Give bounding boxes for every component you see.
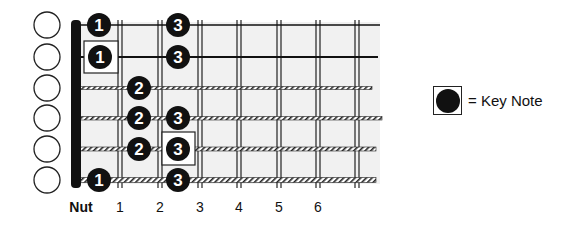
note-s1-f3: 3 bbox=[166, 13, 190, 37]
fretboard-diagram: 1 3 1 3 2 2 3 2 3 1 3 Nut 1 2 3 4 5 6 bbox=[0, 0, 588, 230]
fret-label-3: 3 bbox=[196, 199, 204, 215]
key-note-legend-icon bbox=[433, 86, 462, 115]
note-s2-f1-key: 1 bbox=[88, 45, 112, 69]
note-s6-f3: 3 bbox=[166, 168, 190, 192]
svg-text:3: 3 bbox=[173, 140, 182, 159]
fret-label-5: 5 bbox=[275, 199, 283, 215]
svg-text:2: 2 bbox=[134, 79, 143, 98]
svg-text:3: 3 bbox=[173, 48, 182, 67]
legend-label: = Key Note bbox=[468, 92, 543, 109]
svg-text:1: 1 bbox=[94, 16, 103, 35]
svg-text:1: 1 bbox=[94, 171, 103, 190]
svg-text:3: 3 bbox=[173, 16, 182, 35]
svg-text:1: 1 bbox=[95, 48, 104, 67]
key-note-dot-icon bbox=[436, 89, 460, 113]
open-string-circles bbox=[34, 12, 60, 193]
string-4 bbox=[80, 117, 382, 121]
note-s6-f1: 1 bbox=[87, 168, 111, 192]
string-5 bbox=[80, 147, 376, 151]
note-s5-f3-key: 3 bbox=[166, 137, 190, 161]
note-s3-f2: 2 bbox=[127, 76, 151, 100]
string-6 bbox=[80, 178, 376, 183]
fretboard-background bbox=[80, 22, 380, 184]
fret-labels: Nut 1 2 3 4 5 6 bbox=[69, 199, 322, 215]
note-s4-f2: 2 bbox=[127, 106, 151, 130]
fret-label-1: 1 bbox=[116, 199, 124, 215]
nut-label: Nut bbox=[69, 199, 93, 215]
svg-text:3: 3 bbox=[173, 109, 182, 128]
note-s4-f3: 3 bbox=[166, 106, 190, 130]
svg-text:3: 3 bbox=[173, 171, 182, 190]
fret-label-4: 4 bbox=[235, 199, 243, 215]
string-3 bbox=[80, 87, 372, 90]
note-s5-f2: 2 bbox=[127, 137, 151, 161]
nut bbox=[71, 20, 81, 188]
note-s2-f3: 3 bbox=[166, 45, 190, 69]
fret-label-6: 6 bbox=[314, 199, 322, 215]
fret-label-2: 2 bbox=[156, 199, 164, 215]
svg-text:2: 2 bbox=[134, 140, 143, 159]
legend: = Key Note bbox=[433, 86, 543, 115]
svg-text:2: 2 bbox=[134, 109, 143, 128]
note-s1-f1: 1 bbox=[87, 13, 111, 37]
